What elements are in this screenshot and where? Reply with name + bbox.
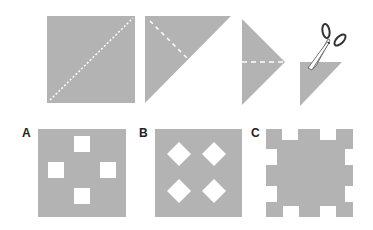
diagram-canvas	[0, 0, 373, 230]
paper-folding-diagram: A B C	[0, 0, 373, 230]
option-c-figure	[266, 129, 353, 217]
step-1-square	[47, 16, 135, 103]
option-b-figure	[155, 129, 242, 217]
step-3-triangle	[242, 19, 285, 105]
hole	[74, 136, 90, 152]
option-a-label: A	[22, 127, 31, 139]
hole	[100, 162, 116, 178]
option-c-label: C	[251, 127, 260, 139]
step-2-triangle	[145, 16, 231, 103]
option-a-figure	[38, 129, 126, 217]
step-4-triangle	[300, 62, 342, 106]
hole	[48, 162, 64, 178]
hole	[74, 188, 90, 204]
option-b-label: B	[139, 127, 148, 139]
